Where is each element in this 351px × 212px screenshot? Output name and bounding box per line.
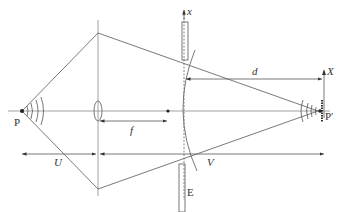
optics-diagram: P f U V x E d X P′ bbox=[0, 0, 351, 212]
image-point-dot bbox=[318, 109, 322, 113]
plate-E bbox=[179, 164, 185, 212]
upper-plate bbox=[182, 22, 188, 60]
ray-lower-refracted bbox=[98, 111, 318, 189]
ray-upper-refracted bbox=[98, 33, 318, 111]
label-P-prime: P′ bbox=[325, 110, 334, 122]
label-d: d bbox=[252, 65, 258, 77]
label-E: E bbox=[187, 186, 194, 198]
label-P: P bbox=[14, 116, 20, 128]
label-f: f bbox=[130, 124, 135, 136]
ray-lower-incident bbox=[22, 111, 98, 189]
diagram-canvas: P f U V x E d X P′ bbox=[0, 0, 351, 212]
label-U: U bbox=[54, 156, 63, 168]
label-V: V bbox=[207, 156, 215, 168]
ray-upper-incident bbox=[22, 33, 98, 111]
label-X: X bbox=[326, 65, 335, 77]
focal-point-dot bbox=[166, 109, 169, 112]
source-point-dot bbox=[20, 109, 24, 113]
curved-wavefront bbox=[183, 50, 197, 171]
label-x: x bbox=[186, 5, 192, 17]
